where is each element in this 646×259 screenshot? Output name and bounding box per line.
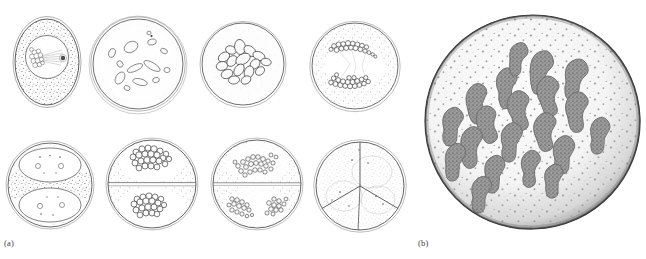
panel-label-a: (a) bbox=[4, 238, 14, 248]
cell-division-figure bbox=[0, 0, 646, 259]
cell-5-telophase bbox=[5, 141, 95, 229]
figure-root: (a) (b) bbox=[0, 0, 646, 259]
panel-label-b: (b) bbox=[418, 238, 429, 248]
panel-b bbox=[425, 15, 640, 229]
